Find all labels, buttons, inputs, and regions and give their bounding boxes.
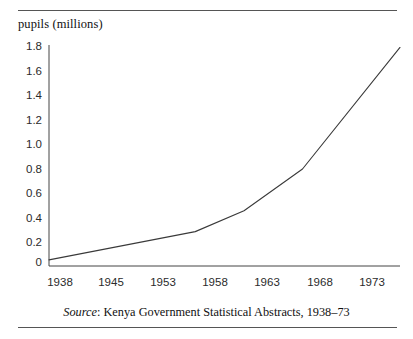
y-tick-label: 0.6 — [10, 187, 42, 199]
y-tick-label: 0.2 — [10, 236, 42, 248]
source-note: Source: Kenya Government Statistical Abs… — [0, 305, 413, 320]
y-tick-label: 1.0 — [10, 138, 42, 150]
x-tick-label: 1938 — [37, 276, 83, 288]
figure-container: pupils (millions) 1.8 1.6 1.4 1.2 1.0 0.… — [0, 0, 413, 339]
source-label: Source — [63, 305, 97, 319]
x-tick-label: 1953 — [140, 276, 186, 288]
y-tick-label: 1.2 — [10, 114, 42, 126]
source-citation: Kenya Government Statistical Abstracts, … — [103, 305, 349, 319]
bottom-rule — [18, 327, 397, 328]
y-tick-label: 1.6 — [10, 65, 42, 77]
y-tick-label: 1.8 — [10, 40, 42, 52]
y-tick-label: 1.4 — [10, 89, 42, 101]
x-tick-label: 1945 — [88, 276, 134, 288]
data-series-line — [49, 47, 400, 259]
x-tick-label: 1973 — [349, 276, 395, 288]
x-tick-label: 1958 — [192, 276, 238, 288]
chart-plot-area — [0, 0, 413, 339]
y-tick-label: 0.8 — [10, 163, 42, 175]
x-tick-label: 1963 — [244, 276, 290, 288]
y-tick-label: 0.4 — [10, 212, 42, 224]
x-tick-label: 1968 — [297, 276, 343, 288]
y-tick-label: 0 — [10, 256, 42, 268]
